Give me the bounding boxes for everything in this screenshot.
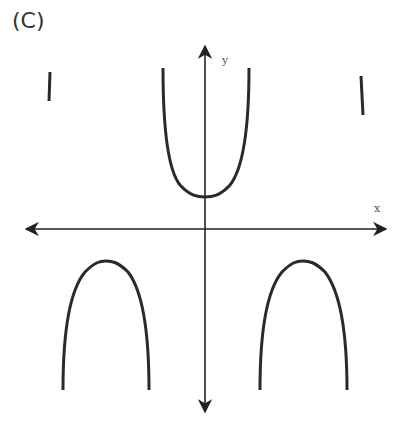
center-upward-branch: [163, 68, 249, 197]
far-left-upward-tail: [49, 72, 50, 101]
graph: y x: [0, 0, 405, 432]
x-axis-label: x: [374, 202, 381, 215]
right-downward-branch: [260, 261, 347, 390]
left-downward-branch: [63, 261, 149, 390]
y-axis-label: y: [221, 54, 229, 67]
far-right-upward-tail: [361, 76, 363, 115]
